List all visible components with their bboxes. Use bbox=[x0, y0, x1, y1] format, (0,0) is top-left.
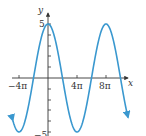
x-axis-label: x bbox=[128, 78, 133, 88]
cosine-graph: y 5 −5 −4π 4π 8π x bbox=[0, 0, 146, 136]
y-tick-label-neg5: −5 bbox=[34, 130, 48, 136]
x-tick-label-neg4pi: −4π bbox=[8, 81, 27, 91]
x-tick-label-8pi: 8π bbox=[99, 81, 111, 91]
y-tick-label-5: 5 bbox=[39, 19, 45, 29]
y-axis-label: y bbox=[37, 5, 44, 15]
x-tick-label-4pi: 4π bbox=[71, 81, 83, 91]
